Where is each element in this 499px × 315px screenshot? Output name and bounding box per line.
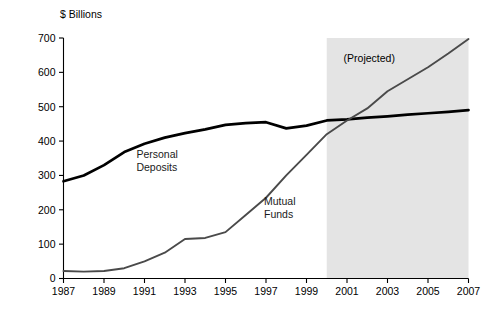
chart-container: 0100200300400500600700 19871989199119931… bbox=[0, 0, 499, 315]
projected-band bbox=[327, 38, 469, 279]
x-tick-label: 1987 bbox=[52, 285, 76, 297]
x-tick-label: 1995 bbox=[214, 285, 238, 297]
series-label-line: Funds bbox=[264, 208, 293, 220]
x-tick-label: 2005 bbox=[416, 285, 440, 297]
x-tick-label: 1991 bbox=[133, 285, 157, 297]
series-label-line: Mutual bbox=[264, 195, 296, 207]
x-axis-ticks: 1987198919911993199519971999200120032005… bbox=[52, 279, 481, 298]
y-tick-label: 100 bbox=[38, 238, 56, 250]
series-label-personal-deposits: PersonalDeposits bbox=[136, 148, 177, 174]
y-tick-label: 200 bbox=[38, 204, 56, 216]
y-tick-label: 600 bbox=[38, 66, 56, 78]
y-axis-ticks: 0100200300400500600700 bbox=[38, 32, 64, 284]
y-tick-label: 500 bbox=[38, 101, 56, 113]
y-tick-label: 400 bbox=[38, 135, 56, 147]
x-tick-label: 1993 bbox=[173, 285, 197, 297]
x-tick-label: 2007 bbox=[457, 285, 481, 297]
series-label-line: Personal bbox=[136, 148, 177, 160]
x-tick-label: 1989 bbox=[92, 285, 116, 297]
line-chart: 0100200300400500600700 19871989199119931… bbox=[0, 0, 499, 315]
annotations-group: (Projected) bbox=[344, 52, 395, 64]
series-label-mutual-funds: MutualFunds bbox=[264, 195, 296, 221]
projected-label: (Projected) bbox=[344, 52, 395, 64]
x-tick-label: 2003 bbox=[376, 285, 400, 297]
series-labels-group: PersonalDepositsMutualFunds bbox=[136, 148, 295, 221]
y-tick-label: 700 bbox=[38, 32, 56, 44]
x-tick-label: 1997 bbox=[254, 285, 278, 297]
y-tick-label: 0 bbox=[50, 272, 56, 284]
x-tick-label: 1999 bbox=[295, 285, 319, 297]
projected-region-group bbox=[327, 38, 469, 279]
y-axis-title: $ Billions bbox=[60, 8, 102, 20]
y-tick-label: 300 bbox=[38, 169, 56, 181]
series-label-line: Deposits bbox=[136, 161, 177, 173]
x-tick-label: 2001 bbox=[335, 285, 359, 297]
